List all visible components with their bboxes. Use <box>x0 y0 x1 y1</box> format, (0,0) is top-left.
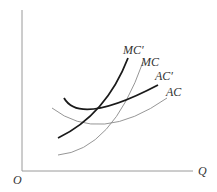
ac-curve <box>52 98 167 124</box>
ac-label: AC <box>166 86 181 98</box>
x-axis-label: Q <box>198 165 207 177</box>
ac-prime-curve <box>64 85 158 109</box>
ac-prime-label: AC′ <box>155 70 173 82</box>
origin-label: O <box>13 174 22 186</box>
cost-curves-diagram <box>0 0 217 192</box>
mc-prime-curve <box>58 58 128 138</box>
mc-label: MC <box>141 56 159 68</box>
